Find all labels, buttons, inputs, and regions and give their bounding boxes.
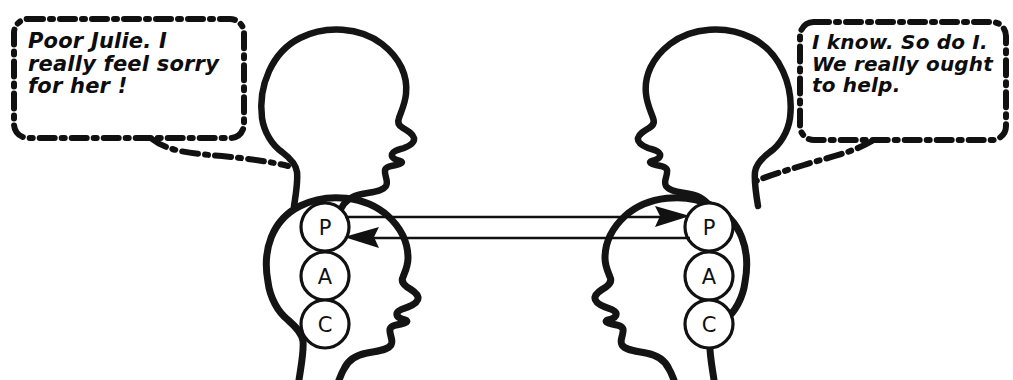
head-lower-left: P A C [266, 198, 418, 380]
ego-letter-left-parent: P [319, 216, 332, 240]
ego-letter-right-parent: P [703, 216, 716, 240]
ego-letter-left-child: C [318, 313, 333, 337]
ego-letter-left-adult: A [318, 265, 333, 289]
speech-bubble-left-text: Poor Julie. I really feel sorry for her … [28, 30, 236, 98]
speech-bubble-left-tail [152, 139, 288, 166]
ego-letter-right-adult: A [702, 265, 717, 289]
head-lower-right: P A C [595, 198, 747, 380]
speech-bubble-right-text: I know. So do I. We really ought to help… [812, 32, 1008, 97]
ego-letter-right-child: C [702, 313, 717, 337]
diagram-canvas: P A C P A C Poor Julie. I really feel so… [0, 0, 1013, 380]
